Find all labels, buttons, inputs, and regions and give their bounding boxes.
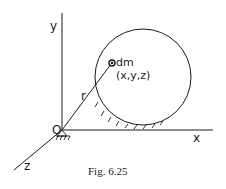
x-axis-label: x	[193, 131, 200, 145]
y-axis-label: y	[50, 19, 57, 33]
mass-element-label: dm	[116, 56, 134, 69]
mass-element-dot-inner	[111, 62, 114, 65]
radius-vector-line	[62, 64, 111, 130]
figure-caption: Fig. 6.25	[88, 165, 128, 177]
coordinates-label: (x,y,z)	[116, 69, 150, 82]
radius-vector-label: r	[81, 89, 86, 103]
z-axis-label: z	[24, 159, 30, 173]
origin-label: O	[52, 123, 61, 137]
figure-diagram: y x z O r dm (x,y,z) Fig. 6.25	[0, 0, 226, 189]
